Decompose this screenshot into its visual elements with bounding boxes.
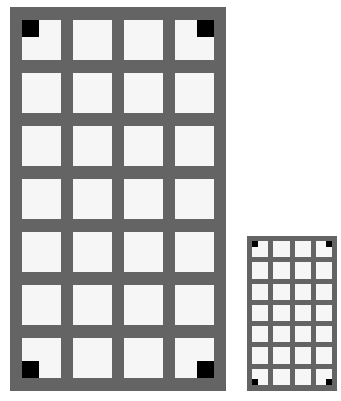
grid-cell (316, 347, 332, 363)
grid-cell (252, 369, 268, 385)
grid-cell (175, 20, 214, 60)
grid-cell (316, 305, 332, 321)
grid-cell (316, 326, 332, 342)
grid-cell (22, 285, 61, 325)
small-grid (247, 236, 337, 391)
grid-cell (124, 179, 163, 219)
grid-cell (73, 179, 112, 219)
grid-cell (124, 232, 163, 272)
corner-marker (197, 20, 214, 37)
grid-cell (252, 347, 268, 363)
grid-cell (273, 326, 289, 342)
grid-cell (295, 369, 311, 385)
grid-cell (22, 73, 61, 113)
grid-cell (273, 305, 289, 321)
grid-cell (73, 338, 112, 378)
grid-cell (273, 284, 289, 300)
corner-marker (326, 379, 332, 385)
grid-cell (175, 179, 214, 219)
grid-cell (316, 284, 332, 300)
grid-cell (175, 285, 214, 325)
grid-cell (22, 126, 61, 166)
grid-cell (124, 20, 163, 60)
grid-cell (175, 73, 214, 113)
grid-cell (252, 305, 268, 321)
grid-cell (316, 262, 332, 278)
grid-cell (175, 232, 214, 272)
grid-cell (22, 20, 61, 60)
grid-cell (175, 126, 214, 166)
grid-cell (73, 73, 112, 113)
grid-cell (273, 347, 289, 363)
grid-cell (22, 338, 61, 378)
grid-cell (73, 285, 112, 325)
grid-cell (273, 369, 289, 385)
grid-cell (22, 179, 61, 219)
grid-cell (273, 262, 289, 278)
grid-cell (124, 338, 163, 378)
grid-cell (73, 20, 112, 60)
corner-marker (22, 20, 39, 37)
grid-cell (252, 262, 268, 278)
grid-cell (73, 126, 112, 166)
grid-cell (22, 232, 61, 272)
grid-cell (124, 73, 163, 113)
corner-marker (22, 361, 39, 378)
corner-marker (252, 241, 258, 247)
grid-cell (124, 285, 163, 325)
grid-cell (252, 326, 268, 342)
grid-cell (295, 284, 311, 300)
grid-cell (295, 347, 311, 363)
corner-marker (326, 241, 332, 247)
large-grid (10, 7, 226, 391)
grid-cell (273, 241, 289, 257)
grid-cell (295, 241, 311, 257)
grid-cell (316, 241, 332, 257)
grid-cell (175, 338, 214, 378)
grid-cell (316, 369, 332, 385)
corner-marker (252, 379, 258, 385)
corner-marker (197, 361, 214, 378)
grid-cell (124, 126, 163, 166)
grid-cell (295, 326, 311, 342)
grid-cell (73, 232, 112, 272)
grid-cell (252, 241, 268, 257)
grid-cell (252, 284, 268, 300)
grid-cell (295, 305, 311, 321)
grid-cell (295, 262, 311, 278)
